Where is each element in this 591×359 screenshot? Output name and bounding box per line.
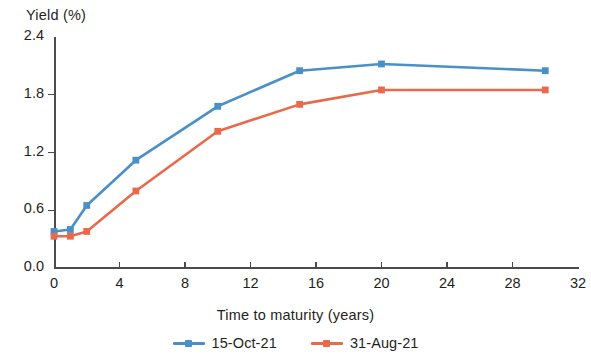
legend-item-15-Oct-21[interactable]: 15-Oct-21 — [173, 335, 277, 351]
legend-item-31-Aug-21[interactable]: 31-Aug-21 — [311, 335, 419, 351]
data-point-marker — [542, 87, 549, 94]
yield-curve-chart: Yield (%) 0.00.61.21.82.4 04812162024283… — [0, 0, 591, 359]
data-point-marker — [214, 103, 221, 110]
x-axis-title: Time to maturity (years) — [0, 307, 591, 323]
legend-swatch-icon — [311, 338, 343, 348]
legend-swatch-icon — [173, 338, 205, 348]
series-plot-area — [0, 0, 591, 359]
data-point-marker — [132, 188, 139, 195]
data-point-marker — [83, 228, 90, 235]
data-point-marker — [67, 233, 74, 240]
data-point-marker — [51, 233, 58, 240]
data-point-marker — [83, 202, 90, 209]
legend-label: 31-Aug-21 — [350, 335, 419, 351]
data-point-marker — [296, 101, 303, 108]
series-15-Oct-21 — [51, 61, 549, 235]
data-point-marker — [296, 67, 303, 74]
data-point-marker — [378, 61, 385, 68]
chart-legend: 15-Oct-2131-Aug-21 — [0, 335, 591, 351]
legend-label: 15-Oct-21 — [212, 335, 277, 351]
series-31-Aug-21 — [51, 87, 549, 240]
data-point-marker — [542, 67, 549, 74]
data-point-marker — [214, 128, 221, 135]
data-point-marker — [132, 157, 139, 164]
series-line — [54, 90, 545, 236]
data-point-marker — [378, 87, 385, 94]
data-point-marker — [67, 226, 74, 233]
